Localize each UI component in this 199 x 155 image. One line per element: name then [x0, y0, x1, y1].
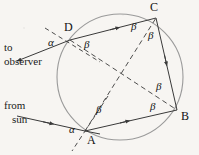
angle-beta-at-d: β: [84, 39, 89, 50]
incoming-sun-ray-arrow: [43, 122, 52, 124]
point-label-d: D: [64, 21, 73, 33]
chord-a-b-arrow: [120, 121, 128, 123]
angle-beta-at-c-left: β: [131, 21, 136, 32]
point-label-c: C: [150, 1, 158, 13]
chord-d-c-arrow: [110, 28, 118, 30]
callout-to-observer-line2: observer: [4, 56, 42, 67]
main-circle: [57, 14, 183, 140]
angle-alpha-at-a: α: [69, 124, 75, 135]
point-label-b: B: [181, 110, 189, 122]
callout-from-sun-line1: from: [4, 100, 25, 111]
geometry-figure: D C B A α α β β β β β β to observer from…: [0, 0, 199, 155]
angle-beta-at-c-right: β: [148, 30, 153, 41]
angle-beta-at-b-lower: β: [150, 101, 155, 112]
point-label-a: A: [87, 134, 96, 146]
angle-beta-at-b-upper: β: [156, 81, 161, 92]
dashed-diagonal-d-b: [70, 40, 177, 110]
chord-c-b-arrow: [165, 55, 167, 64]
angle-beta-at-a: β: [96, 104, 101, 115]
callout-to-observer-line1: to: [4, 42, 13, 53]
diagram-canvas: [0, 0, 199, 155]
angle-alpha-at-d: α: [48, 37, 54, 48]
callout-from-sun-line2: sun: [12, 114, 27, 125]
